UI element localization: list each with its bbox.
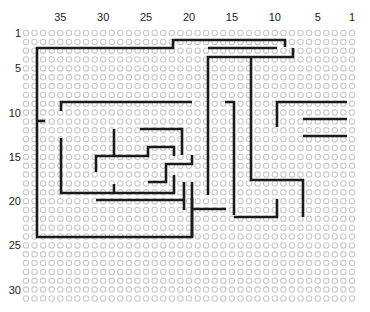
board-hole	[272, 163, 277, 168]
board-hole	[332, 234, 337, 239]
board-hole	[281, 92, 286, 97]
board-hole	[178, 181, 183, 186]
board-hole	[195, 269, 200, 274]
board-hole	[195, 137, 200, 142]
board-hole	[289, 137, 294, 142]
board-hole	[178, 92, 183, 97]
board-hole	[186, 119, 191, 124]
board-hole	[324, 145, 329, 150]
board-hole	[289, 207, 294, 212]
board-hole	[169, 207, 174, 212]
column-label: 15	[226, 11, 238, 23]
board-hole	[332, 181, 337, 186]
board-hole	[49, 75, 54, 80]
board-hole	[229, 234, 234, 239]
board-hole	[238, 172, 243, 177]
board-hole	[341, 278, 346, 283]
board-hole	[332, 207, 337, 212]
board-hole	[272, 92, 277, 97]
board-hole	[101, 172, 106, 177]
board-hole	[83, 199, 88, 204]
board-hole	[58, 252, 63, 257]
board-hole	[195, 110, 200, 115]
board-hole	[298, 163, 303, 168]
board-hole	[298, 48, 303, 53]
board-hole	[281, 119, 286, 124]
board-hole	[49, 296, 54, 301]
board-hole	[109, 163, 114, 168]
board-hole	[109, 119, 114, 124]
board-hole	[75, 110, 80, 115]
board-hole	[58, 216, 63, 221]
board-hole	[118, 66, 123, 71]
board-hole	[161, 119, 166, 124]
board-hole	[143, 252, 148, 257]
board-hole	[118, 216, 123, 221]
column-label: 5	[315, 11, 321, 23]
board-hole	[161, 137, 166, 142]
board-hole	[281, 243, 286, 248]
board-hole	[246, 252, 251, 257]
board-hole	[341, 110, 346, 115]
column-label: 35	[54, 11, 66, 23]
board-hole	[349, 260, 354, 265]
board-hole	[349, 216, 354, 221]
board-hole	[264, 66, 269, 71]
board-hole	[315, 83, 320, 88]
board-hole	[255, 278, 260, 283]
board-hole	[186, 172, 191, 177]
board-hole	[332, 92, 337, 97]
board-hole	[169, 278, 174, 283]
board-hole	[58, 287, 63, 292]
board-hole	[126, 216, 131, 221]
board-hole	[186, 75, 191, 80]
board-hole	[289, 216, 294, 221]
board-hole	[83, 296, 88, 301]
board-hole	[186, 83, 191, 88]
board-hole	[169, 225, 174, 230]
board-hole	[289, 75, 294, 80]
board-hole	[49, 39, 54, 44]
board-hole	[306, 48, 311, 53]
board-hole	[92, 181, 97, 186]
board-hole	[152, 137, 157, 142]
board-hole	[289, 296, 294, 301]
board-hole	[324, 48, 329, 53]
board-hole	[66, 39, 71, 44]
board-hole	[315, 30, 320, 35]
board-hole	[75, 287, 80, 292]
board-hole	[178, 30, 183, 35]
board-hole	[255, 234, 260, 239]
board-hole	[49, 128, 54, 133]
board-hole	[58, 207, 63, 212]
board-hole	[101, 66, 106, 71]
board-hole	[255, 207, 260, 212]
board-hole	[66, 57, 71, 62]
board-hole	[195, 101, 200, 106]
board-hole	[83, 137, 88, 142]
row-label: 25	[9, 239, 21, 251]
board-hole	[332, 243, 337, 248]
column-label: 25	[140, 11, 152, 23]
board-hole	[272, 145, 277, 150]
board-hole	[246, 199, 251, 204]
board-hole	[23, 216, 28, 221]
board-hole	[203, 48, 208, 53]
board-hole	[298, 278, 303, 283]
board-hole	[32, 287, 37, 292]
board-hole	[66, 269, 71, 274]
board-hole	[23, 110, 28, 115]
board-hole	[281, 287, 286, 292]
column-label: 30	[97, 11, 109, 23]
board-hole	[264, 296, 269, 301]
board-hole	[49, 181, 54, 186]
board-hole	[161, 269, 166, 274]
board-hole	[264, 199, 269, 204]
board-hole	[49, 57, 54, 62]
board-hole	[315, 287, 320, 292]
board-hole	[126, 278, 131, 283]
board-hole	[40, 163, 45, 168]
board-hole	[118, 225, 123, 230]
board-hole	[298, 110, 303, 115]
board-hole	[315, 110, 320, 115]
